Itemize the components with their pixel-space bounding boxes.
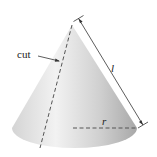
cone-figure: cut l r (0, 0, 157, 157)
slant-tick-bottom (138, 122, 148, 128)
slant-tick-top (74, 16, 84, 22)
slant-height-label: l (111, 62, 114, 74)
cut-label: cut (17, 48, 30, 60)
cone-diagram: cut l r (0, 0, 157, 157)
slant-arrowhead-top (79, 19, 83, 24)
cone-surface (12, 25, 137, 148)
slant-arrowhead-bottom (139, 120, 143, 125)
radius-label: r (102, 115, 107, 127)
